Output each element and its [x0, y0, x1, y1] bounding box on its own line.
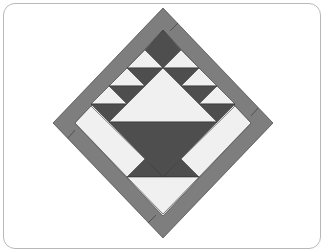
quilt-block-diagram	[0, 0, 325, 243]
